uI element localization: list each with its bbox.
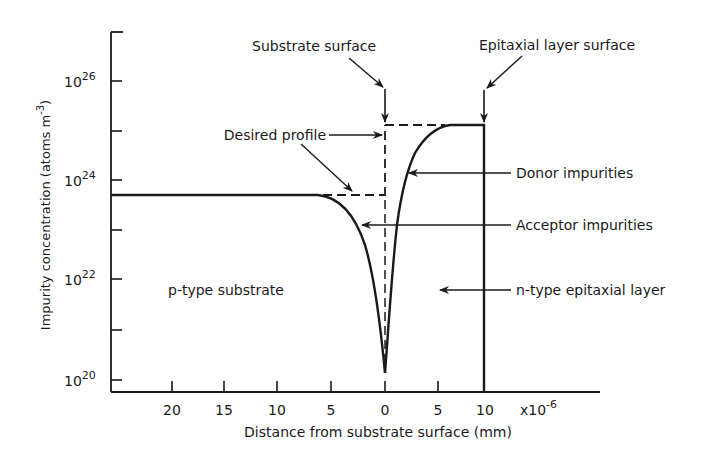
donor-impurities-series [385, 125, 484, 392]
impurity-profile-chart: 1026 1024 1022 1020 20 15 10 5 0 5 10 x1… [0, 0, 719, 458]
x-tick-0: 0 [381, 402, 390, 418]
x-tick-10: 10 [268, 402, 286, 418]
arrow-desired-profile-diag [301, 144, 352, 191]
y-tick-1e22: 1022 [64, 268, 96, 288]
axes [111, 32, 600, 392]
x-multiplier: x10-6 [520, 398, 557, 418]
y-tick-1e26: 1026 [64, 70, 96, 90]
label-donor-impurities: Donor impurities [516, 165, 633, 181]
label-n-type-layer: n-type epitaxial layer [516, 282, 666, 298]
x-axis-title: Distance from substrate surface (mm) [244, 424, 512, 440]
arrow-substrate-surface-diag [349, 58, 383, 87]
x-tick-15: 15 [215, 402, 233, 418]
label-p-type-substrate: p-type substrate [168, 282, 284, 298]
label-desired-profile: Desired profile [224, 127, 326, 143]
y-tick-1e24: 1024 [64, 169, 96, 189]
y-axis-title: Impurity concentration (atoms m-3) [35, 100, 53, 330]
label-epitaxial-surface: Epitaxial layer surface [479, 37, 635, 53]
x-tick-5: 5 [327, 402, 336, 418]
x-tick-labels: 20 15 10 5 0 5 10 [163, 402, 494, 418]
x-tick-pos10: 10 [476, 402, 494, 418]
label-acceptor-impurities: Acceptor impurities [516, 217, 653, 233]
label-substrate-surface: Substrate surface [252, 38, 376, 54]
x-ticks [172, 381, 484, 392]
y-tick-1e20: 1020 [64, 369, 96, 389]
arrow-epitaxial-surface-diag [487, 56, 522, 88]
y-tick-labels: 1026 1024 1022 1020 [64, 70, 96, 389]
x-tick-pos5: 5 [434, 402, 443, 418]
y-ticks [111, 81, 122, 380]
x-tick-20: 20 [163, 402, 181, 418]
